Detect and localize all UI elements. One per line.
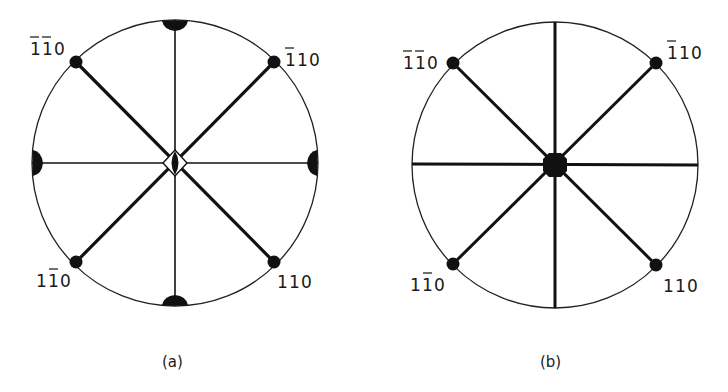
panel-a: 1 1 0 1 1 0 1 1 0 1 1 0 (a) [30, 20, 320, 371]
svg-text:0: 0 [434, 275, 445, 295]
svg-text:0: 0 [427, 53, 438, 73]
svg-text:1: 1 [679, 43, 690, 63]
label-a-bottom-left: 1 1 0 [36, 269, 71, 291]
svg-text:1: 1 [667, 43, 678, 63]
svg-text:1: 1 [415, 53, 426, 73]
svg-text:1: 1 [277, 272, 288, 292]
pole-b-bottom-right [650, 259, 663, 272]
twofold-axis-symbol-left [33, 150, 44, 176]
stereogram-figure: 1 1 0 1 1 0 1 1 0 1 1 0 (a) [0, 0, 728, 392]
svg-text:0: 0 [301, 272, 312, 292]
svg-text:1: 1 [422, 275, 433, 295]
svg-text:1: 1 [36, 271, 47, 291]
pole-a-top-right [268, 56, 281, 69]
label-b-top-right: 1 1 0 [667, 41, 702, 63]
twofold-axis-symbol-right [307, 150, 318, 176]
svg-text:0: 0 [691, 43, 702, 63]
svg-text:0: 0 [687, 276, 698, 296]
svg-text:1: 1 [410, 275, 421, 295]
pole-b-bottom-left [447, 258, 460, 271]
label-a-top-right: 1 1 0 [285, 48, 320, 70]
pole-b-top-right [650, 57, 663, 70]
fourfold-axis-symbol [543, 153, 567, 177]
label-b-top-left: 1 1 0 [403, 51, 438, 73]
label-a-bottom-right: 1 1 0 [277, 272, 312, 292]
pole-a-top-left [70, 56, 83, 69]
svg-text:1: 1 [403, 53, 414, 73]
svg-text:0: 0 [309, 50, 320, 70]
svg-text:1: 1 [289, 272, 300, 292]
pole-a-bottom-right [268, 256, 281, 269]
svg-text:0: 0 [60, 271, 71, 291]
twofold-axis-symbol-top [162, 21, 188, 32]
caption-b: (b) [540, 353, 561, 371]
svg-text:1: 1 [675, 276, 686, 296]
label-b-bottom-left: 1 1 0 [410, 273, 445, 295]
svg-text:1: 1 [297, 50, 308, 70]
pole-a-bottom-left [70, 256, 83, 269]
twofold-axis-symbol-bottom [162, 295, 188, 306]
label-a-top-left: 1 1 0 [30, 37, 65, 59]
svg-text:1: 1 [30, 39, 41, 59]
caption-a: (a) [162, 353, 183, 371]
label-b-bottom-right: 1 1 0 [663, 276, 698, 296]
svg-text:1: 1 [48, 271, 59, 291]
svg-text:0: 0 [54, 39, 65, 59]
svg-text:1: 1 [663, 276, 674, 296]
svg-text:1: 1 [285, 50, 296, 70]
pole-b-top-left [447, 57, 460, 70]
svg-text:1: 1 [42, 39, 53, 59]
panel-b: 1 1 0 1 1 0 1 1 0 1 1 0 (b) [403, 22, 702, 371]
